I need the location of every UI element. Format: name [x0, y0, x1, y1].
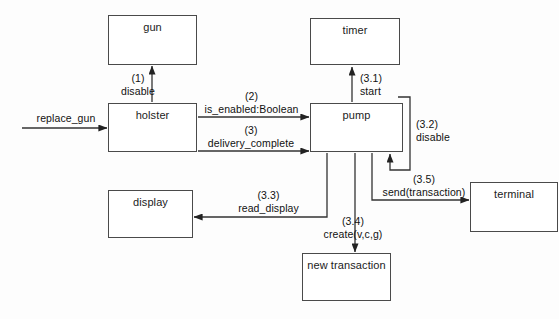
node-pump[interactable]: pump: [310, 103, 403, 152]
message-name-create-transaction: create(v,c,g): [303, 228, 403, 241]
message-label-disable-gun: (1) disable: [100, 72, 176, 97]
node-new-transaction[interactable]: new transaction: [302, 253, 391, 301]
node-terminal-label: terminal: [494, 183, 534, 201]
message-seq-is-enabled: (2): [191, 90, 312, 103]
node-display[interactable]: display: [108, 190, 193, 238]
message-label-create-transaction: (3.4) create(v,c,g): [303, 215, 403, 240]
node-terminal[interactable]: terminal: [470, 182, 558, 232]
message-seq-disable-gun: (1): [100, 72, 176, 85]
message-seq-create-transaction: (3.4): [303, 215, 403, 228]
node-display-label: display: [133, 191, 168, 209]
message-label-read-display: (3.3) read_display: [216, 189, 321, 214]
message-label-start-timer: (3.1) start: [360, 72, 408, 97]
message-seq-delivery-complete: (3): [194, 124, 308, 137]
message-label-send-transaction: (3.5) send(transaction): [375, 173, 473, 198]
message-name-start-timer: start: [360, 85, 408, 98]
node-gun[interactable]: gun: [108, 15, 197, 65]
node-pump-label: pump: [343, 104, 371, 122]
message-seq-disable-pump: (3.2): [416, 118, 466, 131]
message-seq-read-display: (3.3): [216, 189, 321, 202]
diagram-canvas: gun timer holster pump display terminal …: [0, 0, 559, 319]
message-label-disable-pump: (3.2) disable: [416, 118, 466, 143]
node-timer[interactable]: timer: [310, 18, 400, 65]
message-name-is-enabled: is_enabled:Boolean: [191, 103, 312, 116]
message-label-replace-gun: replace_gun: [24, 112, 108, 125]
diagram-connectors: [0, 0, 559, 319]
message-seq-send-transaction: (3.5): [375, 173, 473, 186]
node-timer-label: timer: [343, 19, 368, 37]
message-name-replace-gun: replace_gun: [24, 112, 108, 125]
message-name-disable-gun: disable: [100, 85, 176, 98]
message-name-send-transaction: send(transaction): [375, 186, 473, 199]
node-holster-label: holster: [136, 104, 170, 122]
message-name-read-display: read_display: [216, 202, 321, 215]
message-name-delivery-complete: delivery_complete: [194, 137, 308, 150]
message-name-disable-pump: disable: [416, 131, 466, 144]
node-holster[interactable]: holster: [108, 103, 197, 152]
node-gun-label: gun: [143, 16, 162, 34]
node-new-transaction-label: new transaction: [307, 254, 386, 272]
message-label-delivery-complete: (3) delivery_complete: [194, 124, 308, 149]
message-label-is-enabled: (2) is_enabled:Boolean: [191, 90, 312, 115]
message-seq-start-timer: (3.1): [360, 72, 408, 85]
